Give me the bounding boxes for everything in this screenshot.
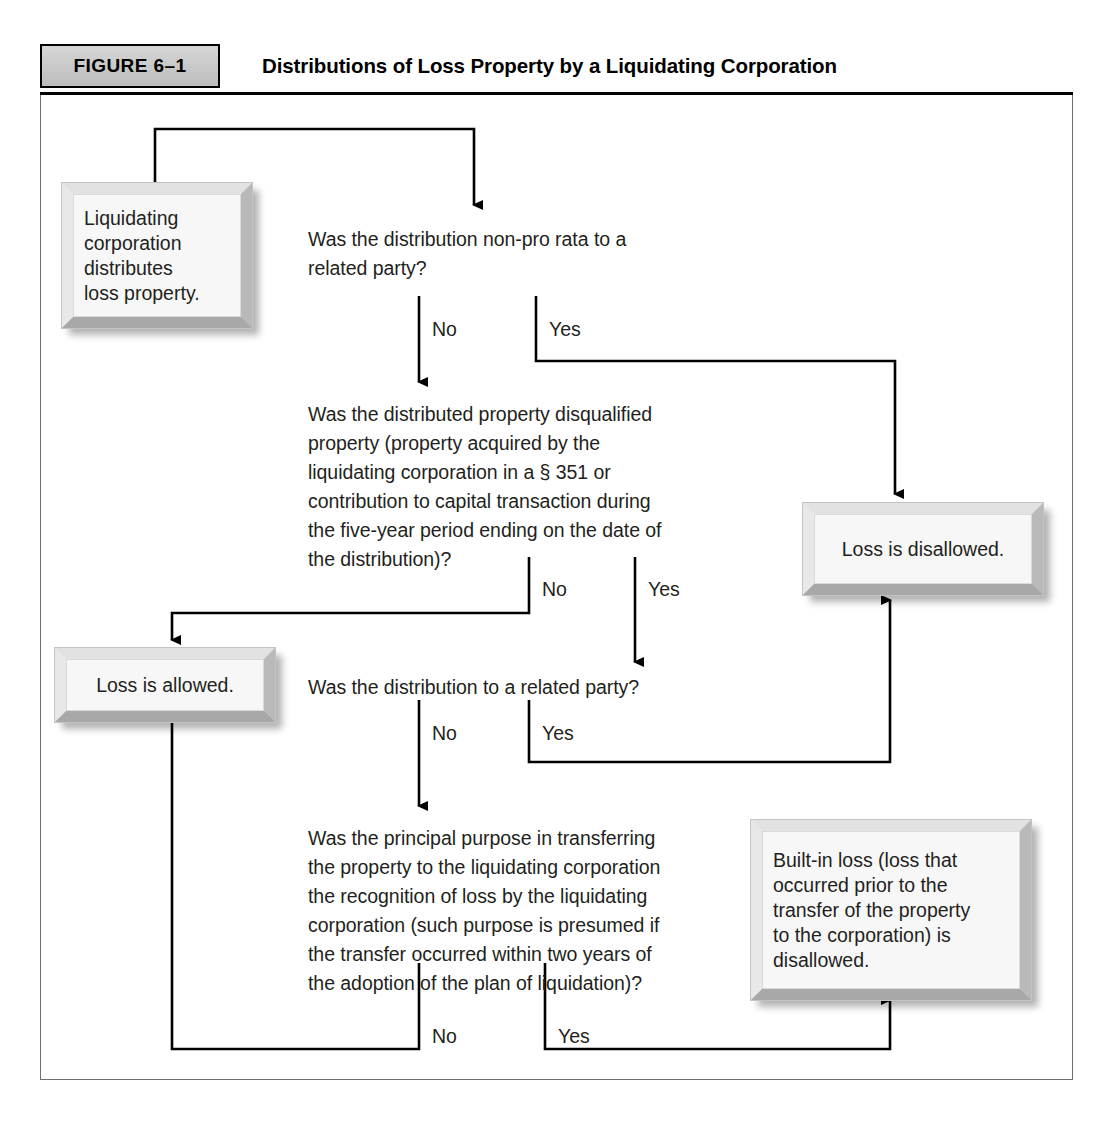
node-loss-disallowed-inner: Loss is disallowed. xyxy=(814,514,1032,584)
node-q3-text: Was the distribution to a related party? xyxy=(308,673,728,702)
branch-label-q1-no: No xyxy=(432,318,457,340)
node-q1-text: Was the distribution non-pro rata to a r… xyxy=(308,225,728,283)
node-loss-allowed-label: Loss is allowed. xyxy=(96,673,234,698)
node-q2-text: Was the distributed property disqualifie… xyxy=(308,400,748,574)
node-start-label: Liquidating corporation distributes loss… xyxy=(84,206,200,306)
figure-number-label: FIGURE 6–1 xyxy=(74,55,187,77)
branch-label-q4-yes: Yes xyxy=(558,1025,590,1047)
node-built-in-loss-inner: Built-in loss (loss that occurred prior … xyxy=(762,831,1020,989)
figure-title: Distributions of Loss Property by a Liqu… xyxy=(262,44,837,88)
branch-label-q3-no: No xyxy=(432,722,457,744)
branch-label-q3-yes: Yes xyxy=(542,722,574,744)
branch-label-q2-no: No xyxy=(542,578,567,600)
node-loss-allowed-inner: Loss is allowed. xyxy=(66,659,264,711)
node-built-in-loss-box: Built-in loss (loss that occurred prior … xyxy=(751,820,1031,1000)
figure-root: FIGURE 6–1 Distributions of Loss Propert… xyxy=(0,0,1111,1140)
branch-label-q1-yes: Yes xyxy=(549,318,581,340)
node-start-inner: Liquidating corporation distributes loss… xyxy=(73,194,241,317)
node-loss-disallowed-box: Loss is disallowed. xyxy=(803,503,1043,595)
figure-number-badge: FIGURE 6–1 xyxy=(40,44,220,88)
node-loss-allowed-box: Loss is allowed. xyxy=(55,648,275,722)
node-loss-disallowed-label: Loss is disallowed. xyxy=(842,537,1005,562)
node-built-in-loss-label: Built-in loss (loss that occurred prior … xyxy=(773,848,970,973)
branch-label-q4-no: No xyxy=(432,1025,457,1047)
figure-header: FIGURE 6–1 Distributions of Loss Propert… xyxy=(40,44,1073,92)
branch-label-q2-yes: Yes xyxy=(648,578,680,600)
node-start-box: Liquidating corporation distributes loss… xyxy=(62,183,252,328)
node-q4-text: Was the principal purpose in transferrin… xyxy=(308,824,758,998)
